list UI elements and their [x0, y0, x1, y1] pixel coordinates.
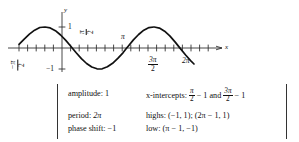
summary-highs-label: highs: [146, 111, 166, 120]
fraction-denominator: 2 [223, 96, 232, 103]
x-tick-label-neg-pi-over-2: −π 2 [12, 57, 28, 73]
summary-phase-shift: phase shift: −1 [68, 125, 116, 134]
summary-x-intercepts: x-intercepts: π 2 − 1 and 3π 2 − 1 [146, 88, 245, 103]
x-axis-label: x [225, 44, 228, 51]
summary-low: low: (π − 1, −1) [146, 125, 198, 134]
summary-inner: amplitude: 1 period: 2π phase shift: −1 … [58, 84, 286, 139]
summary-period-label: period: [68, 111, 91, 120]
summary-fraction-3pi-over-2: 3π 2 [223, 88, 232, 103]
x-tick-label-3pi-over-2: 3π 2 [148, 56, 158, 72]
fraction-denominator: 2 [189, 96, 195, 103]
graph-area: y x 1 −1 −π 2 π 2 π 3π 2 [0, 0, 299, 84]
summary-phase-shift-value: −1 [108, 124, 117, 133]
fraction-3pi-over-2: 3π 2 [148, 56, 158, 72]
summary-phase-shift-label: phase shift: [68, 124, 106, 133]
summary-amplitude: amplitude: 1 [68, 90, 109, 99]
summary-period-value: 2π [93, 111, 101, 120]
summary-amplitude-value: 1 [105, 89, 109, 98]
summary-x-intercepts-label: x-intercepts: [146, 91, 187, 100]
fraction-denominator: 2 [148, 65, 158, 73]
fraction-denominator: 2 [86, 29, 94, 35]
summary-period: period: 2π [68, 112, 101, 121]
summary-x-intercepts-tail: − 1 [235, 91, 246, 100]
y-tick-label-1: 1 [68, 23, 72, 31]
summary-low-value: (π − 1, −1) [163, 124, 198, 133]
y-axis-label: y [64, 7, 67, 14]
summary-box: amplitude: 1 period: 2π phase shift: −1 … [57, 84, 287, 139]
summary-low-label: low: [146, 124, 161, 133]
trig-graph-figure: y x 1 −1 −π 2 π 2 π 3π 2 [0, 0, 299, 142]
x-tick-label-pi-over-2: π 2 [83, 24, 95, 40]
y-tick-label-neg1: −1 [46, 65, 54, 73]
summary-highs: highs: (−1, 1); (2π − 1, 1) [146, 112, 229, 121]
x-tick-label-2pi: 2π [182, 57, 190, 65]
summary-amplitude-label: amplitude: [68, 89, 103, 98]
fraction-pi-over-2: π 2 [78, 29, 94, 35]
fraction-denominator: 2 [18, 60, 26, 71]
x-tick-label-pi: π [121, 33, 125, 41]
summary-highs-value: (−1, 1); (2π − 1, 1) [168, 111, 229, 120]
summary-fraction-pi-over-2: π 2 [189, 88, 195, 103]
fraction-neg-pi-over-2: −π 2 [9, 60, 25, 71]
summary-x-intercepts-mid: − 1 and [197, 91, 222, 100]
